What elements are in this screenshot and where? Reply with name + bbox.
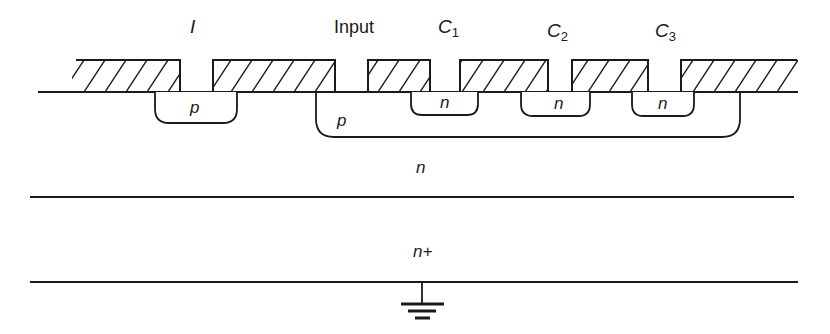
label-n-c1: n [440, 93, 449, 113]
label-input: Input [334, 17, 374, 38]
label-p-large: p [337, 111, 346, 131]
ccd-cross-section [0, 0, 830, 334]
oxide-layer [72, 60, 798, 92]
label-c3-sub: 3 [669, 29, 676, 44]
label-c1-main: C [438, 16, 452, 37]
oxide-block-left [72, 60, 180, 92]
label-c3-main: C [655, 20, 669, 41]
label-input-gate-I: I [190, 16, 195, 38]
oxide-block-right [681, 60, 798, 92]
label-c1-sub: 1 [452, 25, 459, 40]
label-n-plus: n+ [413, 242, 432, 262]
label-n-c2: n [554, 94, 563, 114]
ground-icon [401, 282, 444, 318]
label-c3: C3 [655, 20, 676, 44]
label-n-substrate: n [416, 158, 425, 178]
label-c2-sub: 2 [561, 29, 568, 44]
oxide-block-input [213, 60, 335, 92]
oxide-block-c3 [572, 60, 648, 92]
label-n-c3: n [658, 94, 667, 114]
label-c2: C2 [547, 20, 568, 44]
label-c2-main: C [547, 20, 561, 41]
oxide-block-c1 [368, 60, 430, 92]
label-p-small: p [190, 98, 199, 118]
oxide-block-c2 [460, 60, 548, 92]
label-c1: C1 [438, 16, 459, 40]
